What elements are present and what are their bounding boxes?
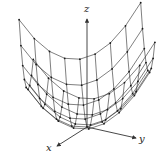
mesh-vertex: [66, 83, 68, 85]
mesh-vertex: [88, 128, 90, 130]
mesh-vertex: [46, 93, 48, 95]
mesh-vertex: [31, 74, 33, 76]
mesh-vertex: [78, 97, 80, 99]
mesh-vertex: [135, 91, 137, 93]
mesh-vertex: [150, 68, 152, 70]
mesh-vertex: [132, 93, 134, 95]
mesh-vertex: [96, 79, 98, 81]
mesh-vertex: [118, 112, 120, 114]
mesh-vertex: [48, 77, 50, 79]
mesh-vertex: [35, 64, 37, 66]
paraboloid-diagram: z x y: [0, 0, 166, 157]
mesh-vertex: [52, 96, 54, 98]
mesh-vertex: [37, 84, 39, 86]
mesh-vertex: [42, 107, 44, 109]
mesh-vertex: [149, 72, 151, 74]
mesh-vertex: [115, 102, 117, 104]
x-axis: [57, 127, 87, 146]
mesh-vertex: [54, 110, 56, 112]
mesh-vertex: [117, 110, 119, 112]
mesh-line: [50, 51, 64, 121]
mesh-vertex: [126, 51, 128, 53]
mesh-vertex: [152, 58, 154, 60]
mesh-vertex: [128, 71, 130, 73]
mesh-vertex: [56, 118, 58, 120]
mesh-vertex: [67, 103, 69, 105]
mesh-vertex: [41, 106, 43, 108]
mesh-vertex: [147, 70, 149, 72]
y-axis: [87, 127, 136, 138]
mesh-vertex: [122, 98, 124, 100]
mesh-vertex: [83, 104, 85, 106]
mesh-vertex: [81, 84, 83, 86]
mesh-vertex: [27, 89, 29, 91]
y-axis-label: y: [139, 134, 145, 144]
z-axis-label: z: [84, 4, 89, 14]
mesh-vertex: [109, 42, 111, 44]
mesh-vertex: [71, 125, 73, 127]
x-axis-label: x: [46, 143, 52, 153]
mesh-vertex: [63, 90, 65, 92]
mesh-line: [28, 73, 150, 129]
mesh-vertex: [100, 113, 102, 115]
mesh-vertex: [125, 25, 127, 27]
mesh-vertex: [124, 82, 126, 84]
mesh-vertex: [137, 81, 139, 83]
mesh-vertex: [93, 98, 95, 100]
mesh-vertex: [84, 118, 86, 120]
mesh-vertex: [130, 85, 132, 87]
mesh-vertex: [98, 99, 100, 101]
mesh-vertex: [18, 19, 20, 21]
mesh-vertex: [76, 113, 78, 115]
mesh-vertex: [49, 51, 51, 53]
mesh-vertex: [73, 127, 75, 129]
mesh-vertex: [103, 123, 105, 125]
mesh-vertex: [39, 98, 41, 100]
mesh-vertex: [29, 85, 31, 87]
mesh-vertex: [140, 2, 142, 4]
mesh-vertex: [120, 108, 122, 110]
mesh-vertex: [74, 123, 76, 125]
mesh-vertex: [64, 57, 66, 59]
mesh-line: [23, 49, 145, 106]
mesh-line: [19, 3, 141, 60]
mesh-vertex: [90, 124, 92, 126]
mesh-vertex: [50, 77, 52, 79]
mesh-vertex: [154, 41, 156, 43]
mesh-vertex: [134, 95, 136, 97]
mesh-vertex: [33, 38, 35, 40]
mesh-vertex: [105, 119, 107, 121]
mesh-vertex: [145, 62, 147, 64]
mesh-vertex: [22, 65, 24, 67]
mesh-vertex: [143, 48, 145, 50]
mesh-vertex: [24, 79, 26, 81]
mesh-vertex: [113, 88, 115, 90]
mesh-vertex: [32, 58, 34, 60]
mesh-line: [65, 58, 79, 128]
mesh-vertex: [79, 58, 81, 60]
mesh-vertex: [101, 121, 103, 123]
mesh-line: [141, 3, 155, 73]
mesh-vertex: [20, 45, 22, 47]
mesh-vertex: [142, 28, 144, 30]
mesh-line: [30, 68, 152, 125]
mesh-vertex: [58, 120, 60, 122]
mesh-vertex: [69, 117, 71, 119]
mesh-vertex: [107, 109, 109, 111]
mesh-vertex: [111, 68, 113, 70]
mesh-vertex: [108, 93, 110, 95]
mesh-line: [32, 58, 154, 114]
mesh-vertex: [61, 106, 63, 108]
mesh-vertex: [44, 103, 46, 105]
mesh-vertex: [25, 87, 27, 89]
mesh-vertex: [91, 114, 93, 116]
mesh-line: [19, 20, 33, 90]
mesh-vertex: [94, 53, 96, 55]
mesh-vertex: [59, 116, 61, 118]
mesh-vertex: [139, 65, 141, 67]
